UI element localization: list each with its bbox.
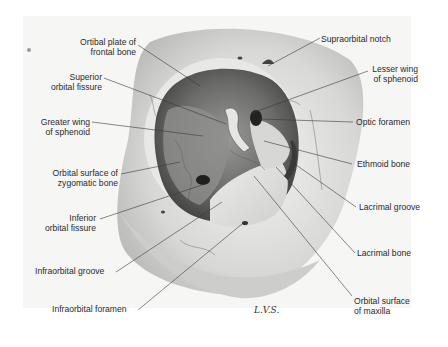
label-line: frontal bone	[58, 47, 136, 57]
label-line: Supraorbital notch	[321, 34, 391, 44]
label-ethmoid-bone: Ethmoid bone	[357, 159, 410, 169]
label-line: Ethmoid bone	[357, 159, 410, 169]
label-line: Inferior	[30, 213, 96, 223]
label-line: Orbital surface	[354, 296, 410, 306]
label-line: Lacrimal groove	[359, 202, 420, 212]
label-line: orbital fissure	[30, 223, 96, 233]
label-infraorbital-foramen: Infraorbital foramen	[52, 304, 127, 314]
label-line: Greater wing	[30, 117, 90, 127]
label-orbital-surface-maxilla: Orbital surface of maxilla	[354, 296, 410, 316]
label-line: Infraorbital groove	[35, 266, 104, 276]
label-line: Lacrimal bone	[357, 248, 411, 258]
label-line: Infraorbital foramen	[52, 304, 127, 314]
label-line: of sphenoid	[366, 74, 418, 84]
label-orbital-plate-frontal: Ortibal plate of frontal bone	[58, 37, 136, 57]
label-line: zygomatic bone	[28, 178, 118, 188]
label-greater-wing-sphenoid: Greater wing of sphenoid	[30, 117, 90, 137]
label-orbital-surface-zygomatic: Orbital surface of zygomatic bone	[28, 168, 118, 188]
label-lacrimal-bone: Lacrimal bone	[357, 248, 411, 258]
label-inferior-orbital-fissure: Inferior orbital fissure	[30, 213, 96, 233]
artist-signature: L.V.S.	[254, 305, 279, 315]
label-line: Optic foramen	[356, 117, 410, 127]
label-line: of sphenoid	[30, 127, 90, 137]
label-line: Orbital surface of	[28, 168, 118, 178]
optic-foramen-hole	[250, 110, 262, 126]
label-line: Lesser wing	[366, 64, 418, 74]
label-line: orbital fissure	[36, 82, 102, 92]
label-lacrimal-groove: Lacrimal groove	[359, 202, 420, 212]
label-line: Superior	[36, 72, 102, 82]
label-infraorbital-groove: Infraorbital groove	[35, 266, 104, 276]
label-line: of maxilla	[354, 306, 410, 316]
label-line: Ortibal plate of	[58, 37, 136, 47]
label-superior-orbital-fissure: Superior orbital fissure	[36, 72, 102, 92]
label-optic-foramen: Optic foramen	[356, 117, 410, 127]
label-supraorbital-notch: Supraorbital notch	[321, 34, 391, 44]
label-lesser-wing-sphenoid: Lesser wing of sphenoid	[366, 64, 418, 84]
